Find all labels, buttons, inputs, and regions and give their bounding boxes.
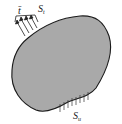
displacement-boundary-label: Su — [73, 110, 81, 122]
elastic-body — [12, 16, 111, 111]
traction-label: t̄ — [18, 5, 22, 16]
elastic-body-diagram: t̄ St Su — [0, 0, 122, 124]
traction-boundary-label: St — [38, 3, 45, 15]
